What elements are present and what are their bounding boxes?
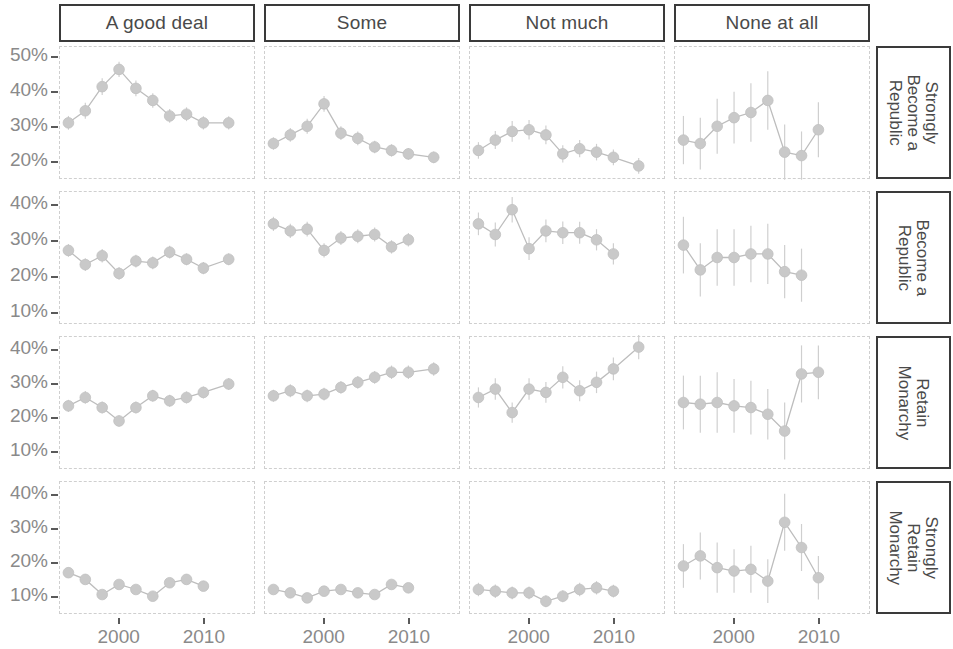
panel-plot [470,192,664,323]
data-point [490,229,501,240]
data-point [131,83,142,94]
data-point [198,118,209,129]
data-point [369,589,380,600]
y-axis-tick-label: 10% [0,584,48,606]
data-point [268,138,279,149]
facet-row-strip-3: RetainMonarchy [876,336,951,469]
y-axis-tick-mark [51,91,58,93]
y-axis-tick-mark [51,562,58,564]
facet-column-label: Not much [526,12,609,34]
data-point [114,64,125,75]
y-axis-tick-mark [51,56,58,58]
data-point [302,224,313,235]
data-point [80,392,91,403]
data-point [386,242,397,253]
data-point [473,392,484,403]
data-point [473,219,484,230]
data-point [97,589,108,600]
facet-row-strip-1: StronglyBecome aRepublic [876,46,951,179]
data-point [712,397,723,408]
data-point [386,367,397,378]
y-axis-tick-mark [51,204,58,206]
data-point [268,219,279,230]
data-point [591,234,602,245]
x-axis-tick-label: 2000 [489,626,569,648]
data-point [164,396,175,407]
facet-column-strip-2: Some [264,4,460,42]
panel-r2-c2 [264,191,460,324]
data-point [63,245,74,256]
data-point [813,572,824,583]
x-axis-tick-mark [818,618,820,624]
data-point [695,265,706,276]
data-point [319,586,330,597]
data-point [369,229,380,240]
data-point [591,582,602,593]
panel-r4-c1 [59,481,255,614]
data-point [813,124,824,135]
data-point [633,342,644,353]
data-point [268,584,279,595]
data-point [678,397,689,408]
data-point [779,517,790,528]
data-point [114,416,125,427]
data-point [796,270,807,281]
panel-r2-c1 [59,191,255,324]
x-axis-tick-mark [323,618,325,624]
x-axis-tick-mark [408,618,410,624]
data-point [779,266,790,277]
facet-row-label: StronglyBecome aRepublic [887,74,941,151]
data-point [695,551,706,562]
data-point [319,245,330,256]
data-point [319,99,330,110]
panel-plot [265,337,459,468]
data-point [796,369,807,380]
data-point [181,254,192,265]
x-axis-tick-label: 2010 [369,626,449,648]
data-point [574,584,585,595]
data-point [695,399,706,410]
data-point [574,385,585,396]
data-point [80,259,91,270]
y-axis-tick-label: 40% [0,79,48,101]
data-point [164,247,175,258]
y-axis-tick-mark [51,383,58,385]
data-point [223,254,234,265]
panel-plot [470,482,664,613]
data-point [729,401,740,412]
panel-plot [675,192,869,323]
data-point [63,401,74,412]
x-axis-tick-label: 2000 [284,626,364,648]
data-point [268,390,279,401]
data-point [147,591,158,602]
panel-r3-c3 [469,336,665,469]
facet-column-label: None at all [725,12,818,34]
y-axis-tick-mark [51,528,58,530]
data-point [524,384,535,395]
y-axis-tick-label: 10% [0,439,48,461]
data-point [352,588,363,599]
data-point [336,584,347,595]
data-point [712,252,723,263]
data-point [490,586,501,597]
data-point [762,95,773,106]
data-point [507,407,518,418]
data-point [746,249,757,260]
data-point [80,574,91,585]
data-point [147,95,158,106]
y-axis-tick-mark [51,451,58,453]
data-point [352,231,363,242]
data-point [557,591,568,602]
data-point [712,121,723,132]
data-point [633,161,644,172]
data-point [746,402,757,413]
data-point [779,426,790,437]
x-axis-tick-mark [203,618,205,624]
x-axis-tick-mark [528,618,530,624]
y-axis-tick-mark [51,276,58,278]
panel-plot [265,482,459,613]
y-axis-tick-mark [51,417,58,419]
data-point [473,584,484,595]
facet-row-label: Become aRepublic [896,219,932,296]
data-point [507,126,518,137]
